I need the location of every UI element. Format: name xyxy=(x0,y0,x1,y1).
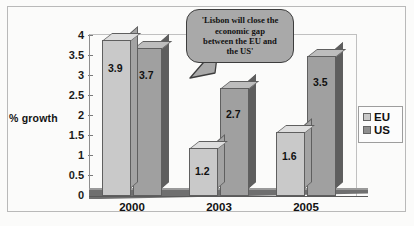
y-tick-label-0-5: 0.5 xyxy=(44,170,84,181)
bar-side-face xyxy=(161,34,169,189)
callout-line-3: between the EU and xyxy=(203,36,277,46)
bar-front-face xyxy=(276,132,305,196)
bar-2005-eu[interactable] xyxy=(276,132,305,196)
bar-value-2000-us: 3.7 xyxy=(139,70,154,81)
y-tick-label-2: 2 xyxy=(44,110,84,121)
x-axis-label-2005: 2005 xyxy=(276,202,336,214)
bar-side-face xyxy=(130,26,138,189)
chart-legend[interactable]: EU US xyxy=(358,106,403,143)
legend-item-us[interactable]: US xyxy=(363,125,399,137)
bar-value-2005-us: 3.5 xyxy=(313,77,328,88)
y-tick-label-3: 3 xyxy=(44,70,84,81)
y-tick-label-2-5: 2.5 xyxy=(44,90,84,101)
speech-bubble-text: 'Lisbon will close the economic gap betw… xyxy=(198,15,283,57)
bar-value-2003-us: 2.7 xyxy=(226,109,241,120)
callout-line-2: economic gap xyxy=(215,26,265,36)
y-tick-label-4: 4 xyxy=(44,30,84,41)
bar-value-2000-eu: 3.9 xyxy=(108,63,123,74)
bar-side-face xyxy=(248,74,256,189)
speech-bubble-callout: 'Lisbon will close the economic gap betw… xyxy=(186,9,294,63)
bar-value-2003-eu: 1.2 xyxy=(195,166,210,177)
legend-label-us: US xyxy=(374,125,390,137)
callout-line-4: the US' xyxy=(227,46,254,56)
legend-label-eu: EU xyxy=(374,112,390,124)
x-axis-label-2003: 2003 xyxy=(189,202,249,214)
chart-canvas: % growth 4 3.5 3 2.5 2 1.5 1 0.5 0 3.9 3… xyxy=(0,0,414,226)
y-tick-label-1: 1 xyxy=(44,150,84,161)
bar-side-face xyxy=(335,42,343,189)
callout-line-1: 'Lisbon will close the xyxy=(202,15,279,25)
legend-swatch-us-icon xyxy=(363,126,371,134)
bar-value-2005-eu: 1.6 xyxy=(282,151,297,162)
legend-swatch-eu-icon xyxy=(363,113,371,121)
legend-item-eu[interactable]: EU xyxy=(363,112,399,124)
y-tick-label-1-5: 1.5 xyxy=(44,130,84,141)
y-tick-label-3-5: 3.5 xyxy=(44,50,84,61)
y-tick-label-0: 0 xyxy=(44,190,84,201)
x-axis-baseline xyxy=(89,196,368,197)
x-axis-label-2000: 2000 xyxy=(102,202,162,214)
